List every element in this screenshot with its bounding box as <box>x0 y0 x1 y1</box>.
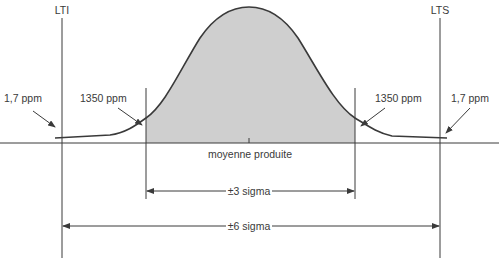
three-sigma-shaded-area <box>146 7 355 143</box>
mean-label: moyenne produite <box>208 148 292 160</box>
left-inner-pointer-arrow <box>118 108 142 125</box>
left-inner-ppm-label: 1350 ppm <box>80 92 127 104</box>
three-sigma-label: ±3 sigma <box>228 185 271 197</box>
six-sigma-label: ±6 sigma <box>228 220 271 232</box>
lts-label: LTS <box>431 4 449 16</box>
six-sigma-diagram: LTI LTS 1,7 ppm 1350 ppm 1350 ppm 1,7 pp… <box>0 0 499 266</box>
right-inner-ppm-label: 1350 ppm <box>375 92 422 104</box>
lti-label: LTI <box>55 4 69 16</box>
left-outer-ppm-label: 1,7 ppm <box>4 92 42 104</box>
right-outer-pointer-arrow <box>446 108 470 133</box>
right-inner-pointer-arrow <box>361 108 385 126</box>
right-outer-ppm-label: 1,7 ppm <box>451 92 489 104</box>
left-outer-pointer-arrow <box>33 111 55 127</box>
